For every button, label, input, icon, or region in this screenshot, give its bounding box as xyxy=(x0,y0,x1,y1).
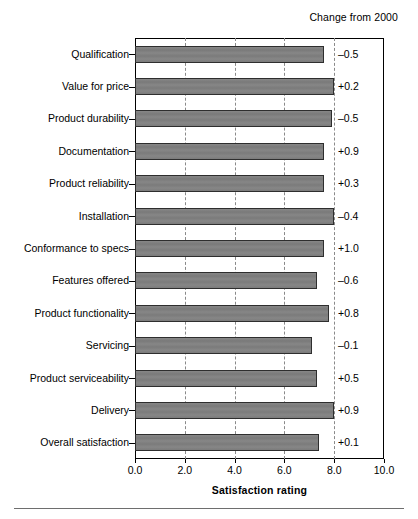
bar xyxy=(135,370,317,387)
category-label: Qualification xyxy=(0,46,129,63)
bar xyxy=(135,175,324,192)
bar xyxy=(135,110,332,127)
x-axis-title: Satisfaction rating xyxy=(51,484,418,496)
category-label: Conformance to specs xyxy=(0,240,129,257)
change-value: –0.5 xyxy=(338,110,358,127)
y-axis-tick xyxy=(129,346,135,347)
bar xyxy=(135,272,317,289)
satisfaction-rating-chart: Change from 2000 QualificationValue for … xyxy=(0,0,418,519)
x-axis-tick xyxy=(384,459,385,463)
x-axis-title-text: Satisfaction rating xyxy=(212,484,307,496)
category-label: Features offered xyxy=(0,272,129,289)
x-axis-tick-label: 8.0 xyxy=(314,464,354,476)
change-value: +0.1 xyxy=(338,434,359,451)
change-value: +0.9 xyxy=(338,143,359,160)
y-axis-tick xyxy=(129,410,135,411)
bar xyxy=(135,78,334,95)
category-label: Product serviceability xyxy=(0,370,129,387)
category-label: Product durability xyxy=(0,110,129,127)
change-value: +0.5 xyxy=(338,370,359,387)
change-value: –0.1 xyxy=(338,337,358,354)
category-label: Overall satisfaction xyxy=(0,434,129,451)
change-value: –0.4 xyxy=(338,208,358,225)
bar xyxy=(135,434,319,451)
change-value: +0.3 xyxy=(338,175,359,192)
x-axis-tick-label: 4.0 xyxy=(215,464,255,476)
y-axis-tick xyxy=(129,87,135,88)
x-axis-tick-label: 10.0 xyxy=(364,464,404,476)
bar xyxy=(135,208,334,225)
y-axis-tick xyxy=(129,313,135,314)
category-label: Delivery xyxy=(0,402,129,419)
bar xyxy=(135,402,334,419)
x-axis-tick-label: 2.0 xyxy=(165,464,205,476)
y-axis-tick xyxy=(129,249,135,250)
bar xyxy=(135,46,324,63)
x-axis-tick xyxy=(284,459,285,463)
x-axis-tick xyxy=(185,459,186,463)
change-value: +1.0 xyxy=(338,240,359,257)
y-axis-tick xyxy=(129,378,135,379)
category-label: Servicing xyxy=(0,337,129,354)
y-axis-tick xyxy=(129,281,135,282)
change-value: +0.9 xyxy=(338,402,359,419)
bar xyxy=(135,240,324,257)
x-axis-tick-label: 6.0 xyxy=(264,464,304,476)
change-value: –0.6 xyxy=(338,272,358,289)
change-value: +0.8 xyxy=(338,305,359,322)
bar xyxy=(135,337,312,354)
category-label: Product reliability xyxy=(0,175,129,192)
category-label: Documentation xyxy=(0,143,129,160)
y-axis-tick xyxy=(129,216,135,217)
x-axis-tick xyxy=(235,459,236,463)
y-axis-tick xyxy=(129,119,135,120)
bar xyxy=(135,305,329,322)
x-axis-tick xyxy=(334,459,335,463)
category-label: Product functionality xyxy=(0,305,129,322)
category-label: Installation xyxy=(0,208,129,225)
change-value: +0.2 xyxy=(338,78,359,95)
bottom-divider-rule xyxy=(14,508,404,509)
category-label: Value for price xyxy=(0,78,129,95)
x-axis-tick xyxy=(135,459,136,463)
y-axis-tick xyxy=(129,443,135,444)
y-axis-tick xyxy=(129,151,135,152)
change-value: –0.5 xyxy=(338,46,358,63)
bar xyxy=(135,143,324,160)
x-axis-tick-label: 0.0 xyxy=(115,464,155,476)
y-axis-tick xyxy=(129,54,135,55)
y-axis-tick xyxy=(129,184,135,185)
